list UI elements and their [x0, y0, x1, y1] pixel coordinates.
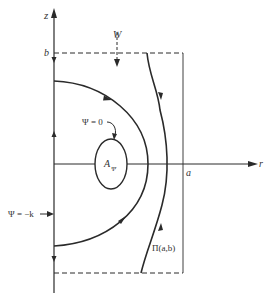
b-marker-label: b [44, 47, 49, 58]
core-region [95, 139, 127, 189]
z-axis [51, 8, 57, 293]
psi-k-pointer [40, 211, 54, 217]
a-marker-label: a [186, 167, 191, 178]
z-axis-label: z [43, 9, 49, 21]
streamline-diagram: z b W Ψ = 0 A Ψ a r Ψ = −k Π(a,b) [0, 0, 269, 302]
r-axis [54, 161, 258, 167]
domain-label: Π(a,b) [152, 243, 175, 253]
z-axis-arrow-icon [51, 8, 57, 18]
r-axis-arrow-icon [248, 161, 258, 167]
psi-zero-pointer [107, 122, 117, 140]
psi-k-label: Ψ = −k [8, 209, 34, 219]
w-label: W [113, 29, 123, 40]
inflow-arrow-icon [114, 59, 120, 67]
axis-flow-arrow-icon [52, 57, 57, 63]
axis-flow-arrow-icon [52, 256, 57, 262]
psi-zero-label: Ψ = 0 [82, 117, 103, 127]
axis-flow-arrow-icon [52, 131, 57, 137]
streamline-arrow-icon [158, 223, 163, 231]
region-label-base: A [103, 158, 111, 169]
r-axis-label: r [259, 158, 263, 169]
outer-streamline [141, 53, 167, 273]
pointer-arrow-icon [47, 211, 54, 217]
